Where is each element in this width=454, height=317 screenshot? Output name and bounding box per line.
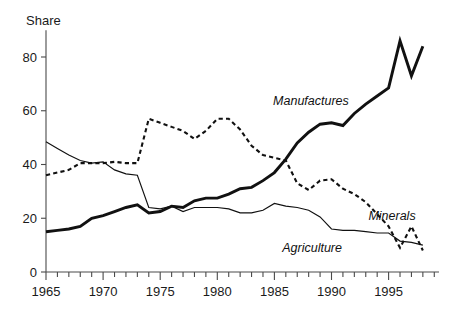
series-label-manufactures: Manufactures [273, 94, 349, 108]
x-tick-label: 1965 [32, 284, 61, 299]
y-axis-title: Share [26, 13, 61, 28]
trade-share-line-chart: 020406080 1965197019751980198519901995 S… [0, 0, 454, 317]
series-lines [46, 41, 423, 251]
series-label-agriculture: Agriculture [281, 241, 342, 255]
x-axis-ticks [46, 272, 434, 280]
axes-group [46, 30, 439, 272]
series-line-manufactures [46, 41, 423, 232]
x-tick-label: 1985 [260, 284, 289, 299]
series-line-agriculture [46, 142, 423, 245]
y-tick-label: 20 [23, 211, 37, 226]
y-tick-label: 0 [30, 265, 37, 280]
x-tick-label: 1995 [374, 284, 403, 299]
x-axis-tick-labels: 1965197019751980198519901995 [32, 284, 404, 299]
y-axis-tick-labels: 020406080 [23, 50, 37, 280]
y-tick-label: 80 [23, 50, 37, 65]
x-tick-label: 1980 [203, 284, 232, 299]
x-tick-label: 1990 [317, 284, 346, 299]
chart-container: 020406080 1965197019751980198519901995 S… [0, 0, 454, 317]
series-line-minerals [46, 119, 423, 251]
y-tick-label: 40 [23, 157, 37, 172]
y-axis-ticks [41, 57, 46, 272]
series-label-minerals: Minerals [368, 209, 415, 223]
x-tick-label: 1970 [89, 284, 118, 299]
y-tick-label: 60 [23, 103, 37, 118]
x-tick-label: 1975 [146, 284, 175, 299]
